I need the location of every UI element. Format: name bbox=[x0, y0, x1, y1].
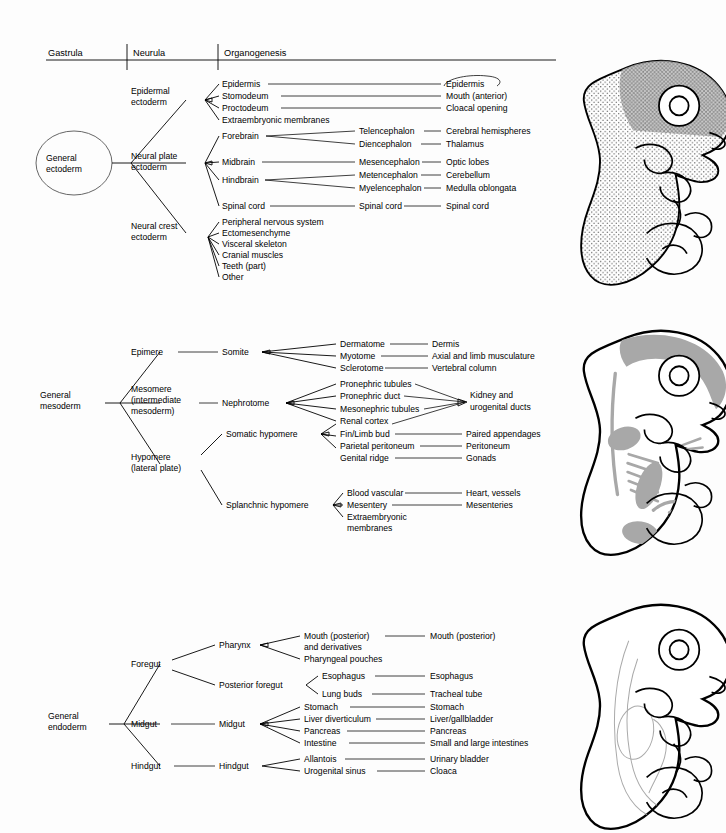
embryo-ectoderm-hindlimb bbox=[685, 213, 712, 238]
embryo-endoderm-eye-inner bbox=[670, 640, 689, 659]
embryo-figures-layer bbox=[0, 0, 726, 833]
embryo-mesoderm-hindlimb-outline bbox=[685, 483, 712, 508]
embryo-mesoderm bbox=[581, 331, 726, 555]
embryo-endoderm bbox=[581, 605, 726, 829]
embryo-eye-inner bbox=[670, 96, 689, 115]
embryo-ectoderm bbox=[581, 60, 726, 285]
embryo-mesoderm-eye-inner bbox=[670, 366, 689, 385]
diagram-page: Gastrula Neurula Organogenesis General e… bbox=[0, 0, 726, 833]
embryo-endoderm-hindlimb-outline bbox=[685, 757, 712, 782]
